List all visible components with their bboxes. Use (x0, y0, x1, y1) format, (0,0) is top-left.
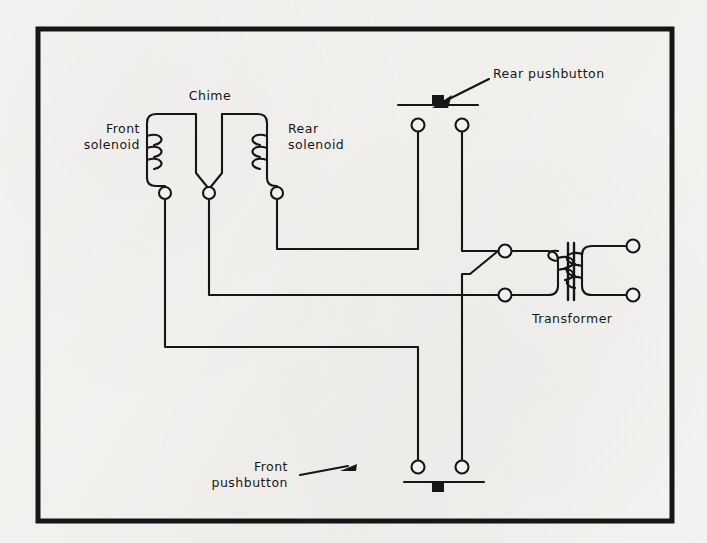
terminal-front-pushbutton-right[interactable] (456, 461, 469, 474)
front-pushbutton-label-line2: pushbutton (178, 475, 288, 490)
terminal-front-solenoid[interactable] (159, 187, 171, 199)
wiring-diagram-canvas (0, 0, 707, 543)
chime-label: Chime (160, 88, 260, 103)
wire-front-solenoid-to-front-pushbutton (165, 200, 418, 460)
rear-solenoid-coil (222, 114, 277, 193)
wire-transformer-top-jog (462, 251, 498, 460)
transformer-label: Transformer (532, 311, 662, 326)
terminal-transformer-secondary-top[interactable] (627, 240, 640, 253)
wire-rear-solenoid-to-trunk (277, 200, 418, 249)
diagram-border (38, 29, 672, 521)
transformer-symbol (512, 243, 626, 300)
terminal-transformer-primary-top[interactable] (499, 245, 512, 258)
terminal-front-pushbutton-left[interactable] (412, 461, 425, 474)
front-solenoid-coil (147, 114, 196, 193)
front-pushbutton-leader-arrow (300, 466, 348, 475)
terminal-rear-pushbutton-left[interactable] (412, 119, 425, 132)
terminal-rear-pushbutton-right[interactable] (456, 119, 469, 132)
front-pushbutton-label-line1: Front (178, 459, 288, 474)
front-pushbutton-plunger[interactable] (432, 482, 444, 492)
terminal-chime[interactable] (203, 187, 215, 199)
wire-chime-to-transformer (209, 200, 505, 295)
wiring-diagram-page: Chime Front solenoid Rear solenoid Trans… (0, 0, 707, 543)
rear-solenoid-label-line1: Rear (288, 121, 398, 136)
rear-pushbutton-label: Rear pushbutton (493, 66, 643, 81)
wire-rear-pushbutton-right-trunk (462, 132, 498, 251)
front-solenoid-label-line1: Front (40, 121, 140, 136)
rear-pushbutton-plunger[interactable] (432, 95, 444, 105)
terminal-rear-solenoid[interactable] (271, 187, 283, 199)
terminal-transformer-primary-bottom[interactable] (499, 289, 512, 302)
rear-solenoid-label-line2: solenoid (288, 137, 398, 152)
terminal-transformer-secondary-bottom[interactable] (627, 289, 640, 302)
chime-junction (196, 114, 222, 189)
front-solenoid-label-line2: solenoid (40, 137, 140, 152)
